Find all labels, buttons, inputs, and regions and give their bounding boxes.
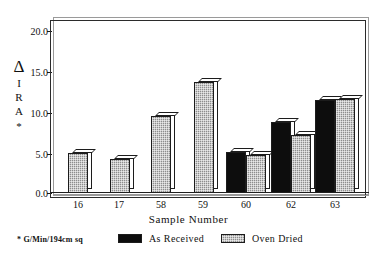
- y-tick-label-10: 10.0: [8, 109, 48, 119]
- x-tick-label-60: 60: [226, 199, 266, 211]
- y-axis-ticks: 20.0 15.0 10.0 5.0 0.0: [4, 0, 48, 265]
- legend-label-as-received: As Received: [149, 233, 204, 245]
- bar-side-face: [355, 95, 359, 189]
- x-tick-label-59: 59: [183, 199, 223, 211]
- x-tick-label-17: 17: [99, 199, 139, 211]
- bar-63-oven-dried: [335, 99, 355, 193]
- y-tick-label-20: 20.0: [8, 27, 48, 37]
- bar-front-face: [315, 100, 335, 193]
- x-axis-title: Sample Number: [0, 213, 377, 225]
- y-tick-label-5: 5.0: [8, 150, 48, 160]
- y-tick-label-0: 0.0: [8, 189, 48, 199]
- bar-front-face: [335, 99, 355, 193]
- axis-baseline-shadow: [53, 195, 369, 196]
- bar-chart: Δ I R A * 20.0 15.0 10.0 5.0 0.0 16 17 5…: [0, 0, 377, 265]
- legend-label-oven-dried: Oven Dried: [252, 233, 303, 245]
- x-tick-label-58: 58: [141, 199, 181, 211]
- x-tick-label-16: 16: [58, 199, 98, 211]
- bar-group-63: [51, 21, 365, 193]
- plot-area: [51, 21, 365, 193]
- x-tick-label-62: 62: [271, 199, 311, 211]
- chart-legend: * G/Min/194cm sq As Received Oven Dried: [0, 232, 377, 250]
- y-tick-label-15: 15.0: [8, 68, 48, 78]
- x-axis-title-text: Sample Number: [149, 213, 229, 225]
- legend-swatch-oven-dried-icon: [221, 234, 245, 243]
- bar-63-as-received: [315, 100, 335, 193]
- legend-footnote: * G/Min/194cm sq: [17, 235, 83, 245]
- axis-baseline: [50, 192, 369, 193]
- x-axis-ticks: 16 17 58 59 60 62 63: [0, 199, 377, 213]
- x-tick-label-63: 63: [315, 199, 355, 211]
- legend-swatch-as-received-icon: [118, 234, 142, 243]
